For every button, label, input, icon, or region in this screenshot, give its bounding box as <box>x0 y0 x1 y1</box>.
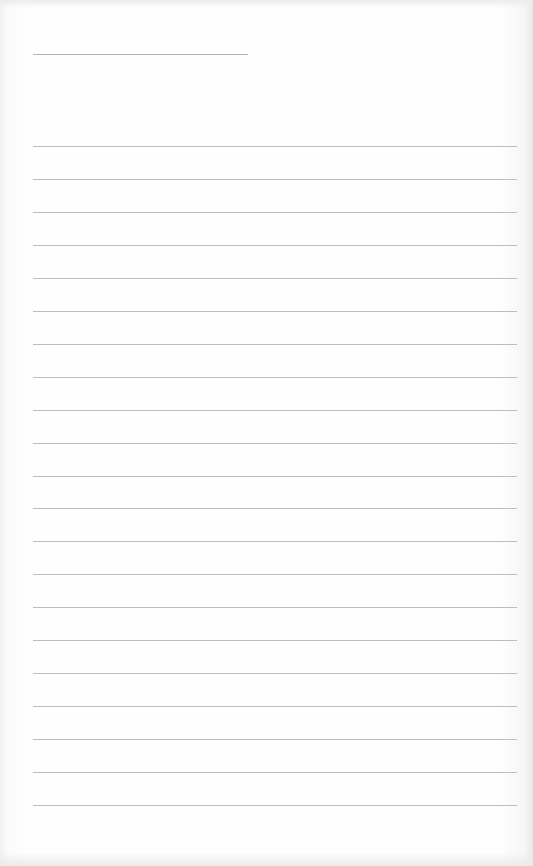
ruled-line <box>33 245 517 246</box>
ruled-line <box>33 344 517 345</box>
page-bottom-shadow <box>0 852 533 866</box>
ruled-line <box>33 673 517 674</box>
title-line <box>33 54 248 55</box>
ruled-line <box>33 278 517 279</box>
ruled-line <box>33 607 517 608</box>
ruled-line <box>33 443 517 444</box>
ruled-line <box>33 772 517 773</box>
ruled-line <box>33 541 517 542</box>
ruled-line <box>33 640 517 641</box>
ruled-line <box>33 476 517 477</box>
ruled-line <box>33 410 517 411</box>
ruled-line <box>33 146 517 147</box>
ruled-line <box>33 805 517 806</box>
ruled-line <box>33 212 517 213</box>
page-top-shadow <box>0 0 533 8</box>
ruled-line <box>33 739 517 740</box>
ruled-line <box>33 508 517 509</box>
ruled-line <box>33 574 517 575</box>
lined-paper-page <box>0 0 533 866</box>
ruled-line <box>33 377 517 378</box>
ruled-line <box>33 311 517 312</box>
ruled-line <box>33 706 517 707</box>
ruled-line <box>33 179 517 180</box>
